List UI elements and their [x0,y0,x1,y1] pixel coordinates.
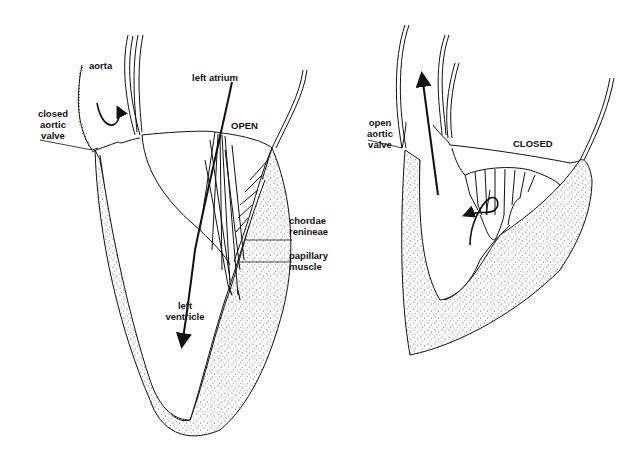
label-line: ventricle [155,311,215,322]
label-line: aortic [24,119,82,130]
label-mitral-closed: CLOSED [513,138,553,149]
label-line: aortic [360,128,400,139]
label-line: renineae [289,226,328,237]
label-chordae: chordae renineae [289,215,328,237]
label-open-aortic-valve: open aortic valve [360,117,400,150]
label-papillary-muscle: papillary muscle [289,250,328,272]
label-left-atrium: left atrium [192,72,238,83]
left-heart-diastole [40,35,307,436]
label-line: valve [360,139,400,150]
label-closed-aortic-valve: closed aortic valve [24,108,82,141]
label-line: closed [24,108,82,119]
left-heart-systole [368,25,614,355]
label-left-ventricle: left ventricle [155,300,215,322]
label-mitral-open: OPEN [231,120,258,131]
label-line: valve [24,130,82,141]
label-line: open [360,117,400,128]
label-line: papillary [289,250,328,261]
label-line: chordae [289,215,328,226]
label-line: muscle [289,261,328,272]
label-aorta: aorta [89,60,112,71]
label-line: left [155,300,215,311]
